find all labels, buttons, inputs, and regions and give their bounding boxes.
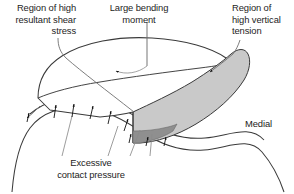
label-large-bending-moment: Large bending moment — [98, 2, 180, 25]
label-excessive-contact-pressure: Excessive contact pressure — [32, 157, 150, 180]
figure-container: Region of high resultant shear stress La… — [0, 0, 294, 194]
label-region-high-shear-stress: Region of high resultant shear stress — [2, 2, 76, 37]
label-region-high-vertical-tension: Region of high vertical tension — [232, 2, 294, 37]
label-medial: Medial — [245, 118, 289, 130]
